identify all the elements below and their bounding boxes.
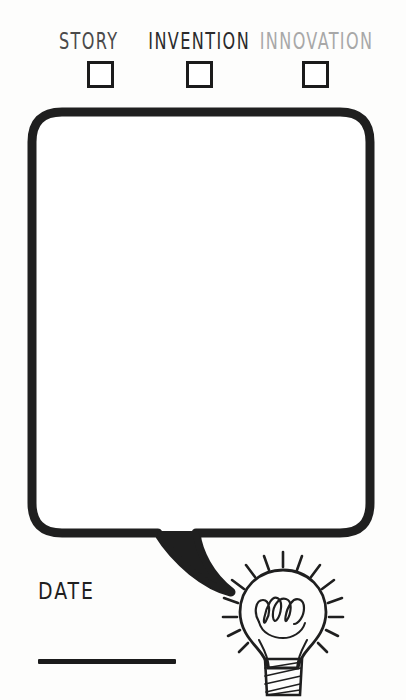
category-row: STORY INVENTION INNOVATION: [0, 28, 406, 98]
worksheet-page: STORY INVENTION INNOVATION: [0, 0, 406, 700]
checkbox-story[interactable]: [87, 61, 114, 88]
date-input-line[interactable]: [38, 659, 176, 664]
category-invention: INVENTION: [146, 28, 252, 88]
category-label-invention: INVENTION: [148, 28, 250, 54]
category-label-story: STORY: [59, 28, 119, 54]
speech-bubble-tail: [160, 534, 231, 592]
lightbulb-filament: [256, 598, 305, 638]
lightbulb-icon: [223, 552, 343, 695]
lightbulb-neck-left: [259, 640, 269, 668]
lightbulb-neck-right: [297, 640, 307, 668]
date-label: DATE: [38, 578, 95, 605]
lightbulb-glass: [240, 570, 326, 668]
category-story: STORY: [33, 28, 145, 88]
speech-bubble[interactable]: [32, 112, 370, 592]
category-innovation: INNOVATION: [254, 28, 380, 88]
checkbox-invention[interactable]: [186, 61, 213, 88]
lightbulb-base-hatching: [265, 662, 302, 695]
lightbulb-rays: [223, 552, 343, 652]
checkbox-innovation[interactable]: [302, 61, 329, 88]
category-label-innovation: INNOVATION: [260, 28, 374, 54]
lightbulb-base: [265, 659, 302, 695]
